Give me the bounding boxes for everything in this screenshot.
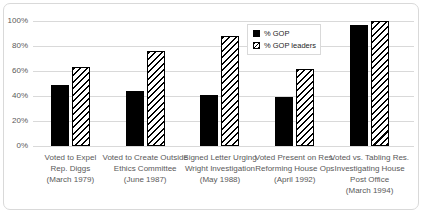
legend-item-gop-leaders: % GOP leaders	[253, 41, 315, 50]
plot-area	[33, 21, 407, 146]
gop-solid-swatch-icon	[253, 30, 260, 37]
gop-bar	[350, 25, 368, 146]
legend-item-gop: % GOP	[253, 29, 315, 38]
bar-group	[332, 21, 407, 146]
gop-leaders-bar	[147, 51, 165, 146]
legend-label-gop: % GOP	[264, 29, 289, 38]
category-label: Voted vs. Tabling Res.Investigating Hous…	[322, 152, 418, 196]
gop-leaders-hatch-swatch-icon	[253, 42, 260, 49]
gop-leaders-bar	[72, 67, 90, 146]
legend: % GOP % GOP leaders	[247, 24, 321, 55]
bar-group	[108, 21, 183, 146]
gop-leaders-bar	[221, 36, 239, 146]
gop-leaders-bar	[371, 21, 389, 146]
bar-group	[33, 21, 108, 146]
legend-label-gop-leaders: % GOP leaders	[264, 41, 316, 50]
gop-leaders-bar	[296, 69, 314, 147]
gop-bar	[126, 91, 144, 146]
gop-bar	[200, 95, 218, 146]
gop-bar	[51, 85, 69, 146]
gop-bar	[275, 97, 293, 146]
